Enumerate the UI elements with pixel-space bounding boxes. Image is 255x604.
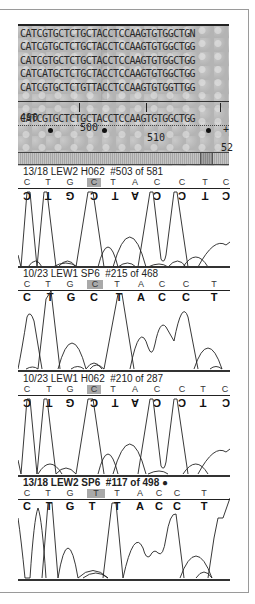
trace-baseline xyxy=(18,579,230,581)
scrollbar-thumb[interactable] xyxy=(200,153,213,164)
alignment-panel: CATCGTGCTCTGCTACCTCCAAGTGTGGCTGN CATCGTG… xyxy=(18,24,229,166)
ruler-tick xyxy=(79,103,80,112)
alignment-top-border xyxy=(18,24,229,26)
sequence-row-3[interactable]: CATCGTGCTCTGCTACCTCCAAGTGTGGCTGG xyxy=(20,55,195,66)
chromatogram-4: 13/18 LEW2 SP6 #117 of 498 ● C T G T T A… xyxy=(18,478,230,584)
dotted-guide-line xyxy=(18,125,229,126)
consensus-row: CATCGTGCTCTGCTACCTCCAAGTGTGGCTGG xyxy=(20,113,195,124)
alignment-separator xyxy=(18,101,229,102)
plus-marker-icon: + xyxy=(223,124,229,135)
sequence-row-2[interactable]: CATCGTGCTCTGCTACCTCCAAGTGTGGCTGG xyxy=(20,41,195,52)
trace-waveform xyxy=(18,374,230,478)
horizontal-scrollbar[interactable] xyxy=(18,152,229,165)
chromatogram-3: 10/23 LEW1 H062 #210 of 287 C T G C T A … xyxy=(18,374,230,478)
marker-dot-icon xyxy=(48,128,53,133)
trace-waveform xyxy=(18,167,230,270)
marker-dot-icon xyxy=(102,128,107,133)
marker-dot-icon xyxy=(206,128,211,133)
chromatogram-1: 13/18 LEW2 H062 #503 of 581 C T G C T A … xyxy=(18,167,230,270)
sequence-row-5[interactable]: CATCGTGCTCTGTTACCTCCAAGTGTGGTTGG xyxy=(20,82,195,93)
trace-waveform xyxy=(18,269,230,373)
ruler-tick xyxy=(146,103,147,112)
sequence-row-4[interactable]: CATCATGCTCTGCTACCTCCAAGTGTGGCTGG xyxy=(20,68,195,79)
ruler-tick xyxy=(220,103,221,112)
sequence-row-1[interactable]: CATCGTGCTCTGCTACCTCCAAGTGTGGCTGN xyxy=(20,28,195,39)
trace-baseline xyxy=(18,370,230,372)
chromatogram-2: 10/23 LEW1 SP6 #215 of 468 C T G C T A C… xyxy=(18,269,230,373)
ruler-label-510: 510 xyxy=(147,133,165,143)
trace-waveform xyxy=(18,478,230,584)
